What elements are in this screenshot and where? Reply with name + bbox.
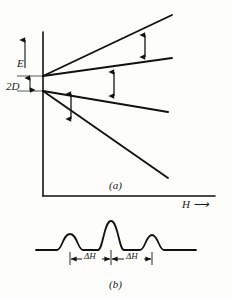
panel-a-group [17,15,215,196]
figure-svg [0,0,231,299]
panel-b-group [36,221,196,265]
energy-branch-lower-steep [43,91,168,178]
energy-branch-lower-shallow [43,91,168,112]
figure-container: E 2D H ⟶ (a) ΔH ΔH (b) [0,0,231,299]
panel-a-caption: (a) [109,180,122,191]
panel-b-caption: (b) [109,279,122,290]
x-axis-label: H ⟶ [182,199,209,210]
delta-h-label-2: ΔH [126,252,138,261]
delta-h-label-1: ΔH [84,252,96,261]
zero-field-splitting-label: 2D [6,81,19,92]
absorption-spectrum-curve [36,221,196,250]
y-axis-label: E [17,58,24,69]
